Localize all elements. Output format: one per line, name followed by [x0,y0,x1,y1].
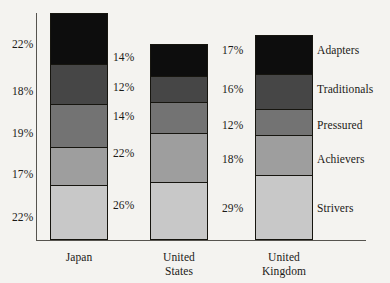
segment-japan-adapters [51,14,107,64]
segment-uk-achievers [256,135,312,175]
legend-label-adapters: Adapters [317,44,359,56]
segment-japan-pressured [51,104,107,147]
value-label-japan-achievers: 17% [12,168,33,180]
legend-label-traditionals: Traditionals [317,83,373,95]
tick-label-united-states: United States [133,250,225,278]
segment-us-achievers [151,133,207,182]
segment-uk-strivers [256,175,312,239]
segment-us-pressured [151,102,207,133]
value-label-us-adapters: 14% [113,51,134,63]
segment-uk-traditionals [256,74,312,109]
value-label-uk-pressured: 12% [222,119,243,131]
value-label-uk-traditionals: 16% [222,83,243,95]
legend-label-pressured: Pressured [317,119,363,131]
tick-label-united-kingdom-line2: Kingdom [238,264,330,278]
segment-us-adapters [151,45,207,76]
value-label-japan-strivers: 22% [12,211,33,223]
tick-label-japan-text: Japan [33,250,125,264]
legend-label-achievers: Achievers [317,153,365,165]
segment-uk-adapters [256,36,312,74]
tick-label-japan: Japan [33,250,125,264]
segment-uk-pressured [256,109,312,135]
stacked-bar-chart: 22% 18% 19% 17% 22% 14% 12% 14% 22% 26% … [0,0,390,283]
value-label-uk-adapters: 17% [222,44,243,56]
value-label-japan-adapters: 22% [12,38,33,50]
value-label-uk-strivers: 29% [222,202,243,214]
value-label-us-traditionals: 12% [113,81,134,93]
x-axis-line [36,240,366,241]
value-label-us-pressured: 14% [113,110,134,122]
segment-us-traditionals [151,76,207,102]
tick-label-united-kingdom: United Kingdom [238,250,330,278]
legend-label-strivers: Strivers [317,202,354,214]
tick-label-united-states-line2: States [133,264,225,278]
bar-japan [50,13,108,240]
segment-japan-traditionals [51,64,107,105]
tick-label-united-states-line1: United [133,250,225,264]
bar-united-states [150,44,208,240]
value-label-japan-pressured: 19% [12,127,33,139]
segment-japan-strivers [51,185,107,239]
segment-japan-achievers [51,147,107,185]
y-axis-line [36,13,37,241]
segment-us-strivers [151,182,207,239]
tick-label-united-kingdom-line1: United [238,250,330,264]
bar-united-kingdom [255,35,313,240]
value-label-japan-traditionals: 18% [12,85,33,97]
value-label-us-achievers: 22% [113,147,134,159]
value-label-us-strivers: 26% [113,199,134,211]
value-label-uk-achievers: 18% [222,153,243,165]
